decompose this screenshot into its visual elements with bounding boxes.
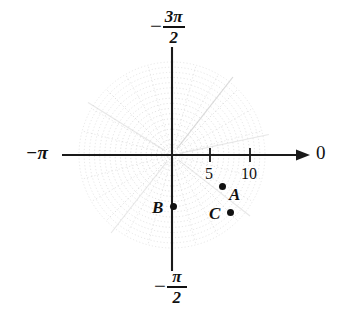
fraction-top-denominator: 2 <box>167 28 180 46</box>
minus-sign-left: − <box>26 142 38 163</box>
fraction-bottom-numerator: π <box>170 268 183 286</box>
fraction-top-numerator: 3π <box>163 8 185 26</box>
data-point-b-dot <box>170 203 177 210</box>
axis-label-top-minus-three-pi-over-two: − 3π 2 <box>150 8 185 46</box>
minus-sign-bottom: − <box>154 276 166 297</box>
fraction-bottom: π 2 <box>167 268 187 306</box>
axis-label-left-minus-pi: −π <box>26 143 48 162</box>
tick-label-5: 5 <box>205 166 213 182</box>
data-point-a-label: A <box>229 186 240 203</box>
fraction-top: 3π 2 <box>163 8 185 46</box>
tick-label-10: 10 <box>241 166 257 182</box>
data-point-c-dot <box>227 209 234 216</box>
polar-plot-figure: − 3π 2 − π 2 −π 0 5 10 A B C <box>0 0 347 312</box>
pi-symbol-left: π <box>38 142 48 163</box>
axis-label-bottom-minus-pi-over-two: − π 2 <box>154 268 187 306</box>
data-point-a-dot <box>219 183 226 190</box>
axis-label-right-zero: 0 <box>316 143 326 162</box>
axis-arrowhead-icon <box>296 150 310 161</box>
fraction-bottom-denominator: 2 <box>171 288 184 306</box>
data-point-c-label: C <box>209 205 220 222</box>
data-point-b-label: B <box>152 199 163 216</box>
minus-sign-top: − <box>150 16 162 37</box>
polar-grid-canvas <box>0 0 347 312</box>
